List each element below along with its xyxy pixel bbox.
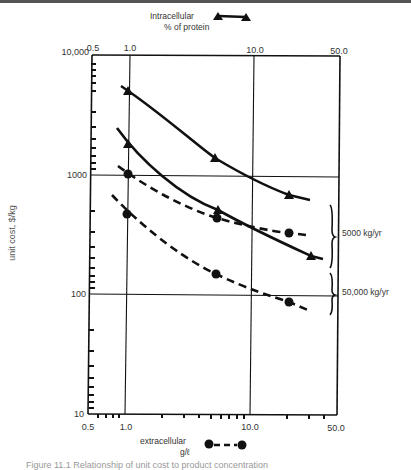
series-intracellular-50000 [117, 128, 323, 260]
x-top-tick-50: 50.0 [330, 46, 348, 56]
legend-extracellular-marker [205, 440, 247, 450]
circle-marker-icon [285, 298, 294, 307]
y-axis-label: unit cost, $/kg [7, 183, 17, 283]
circle-marker-icon [212, 270, 221, 279]
x-bottom-tick-50: 50.0 [327, 423, 345, 433]
group-braces [330, 205, 335, 315]
legend-extracellular: extracellular g/ℓ [140, 436, 190, 458]
group-label-5000: 5000 kg/yr [342, 228, 382, 238]
circle-marker-icon [213, 214, 222, 223]
x-bottom-tick-0.5: 0.5 [82, 422, 95, 432]
x-top-tick-10: 10.0 [246, 45, 264, 55]
group-label-50000: 50,000 kg/yr [342, 287, 389, 297]
series-extracellular-50000 [112, 195, 310, 311]
figure-caption: Figure 11.1 Relationship of unit cost to… [26, 460, 268, 470]
legend-extracellular-unit: g/ℓ [140, 447, 190, 458]
x-top-tick-0.5: 0.5 [87, 43, 100, 53]
circle-marker-icon [285, 229, 294, 238]
series-intracellular-5000 [121, 86, 310, 200]
x-bottom-tick-1: 1.0 [120, 422, 133, 432]
triangle-marker-icon [123, 139, 133, 148]
y-tick-10000: 10,000 [61, 47, 89, 57]
y-tick-1000: 1000 [67, 170, 87, 180]
y-tick-10: 10 [74, 409, 84, 419]
legend-intracellular: Intracellular % of protein [150, 11, 209, 33]
x-top-tick-1: 1.0 [124, 43, 137, 53]
y-tick-100: 100 [71, 289, 86, 299]
x-bottom-tick-10: 10.0 [241, 422, 259, 432]
legend-intracellular-unit: % of protein [150, 22, 209, 33]
legend-intracellular-label: Intracellular [150, 11, 209, 22]
circle-marker-icon [124, 170, 133, 179]
legend-intracellular-marker [213, 12, 251, 21]
circle-marker-icon [123, 210, 132, 219]
legend-extracellular-label: extracellular [140, 436, 190, 447]
